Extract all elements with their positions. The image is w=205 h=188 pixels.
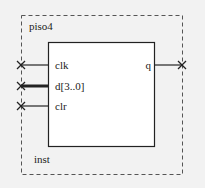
block-symbol-diagram: piso4 clk d[3..0] clr q — [0, 0, 205, 188]
pin-label-clr: clr — [55, 100, 67, 112]
instance-name-label: inst — [34, 153, 50, 165]
pin-label-q: q — [146, 59, 152, 71]
pin-label-d: d[3..0] — [55, 80, 84, 92]
pin-label-clk: clk — [55, 59, 69, 71]
pin-clk[interactable]: clk — [17, 59, 69, 71]
pin-clr[interactable]: clr — [17, 100, 67, 112]
entity-name-label: piso4 — [29, 20, 53, 32]
